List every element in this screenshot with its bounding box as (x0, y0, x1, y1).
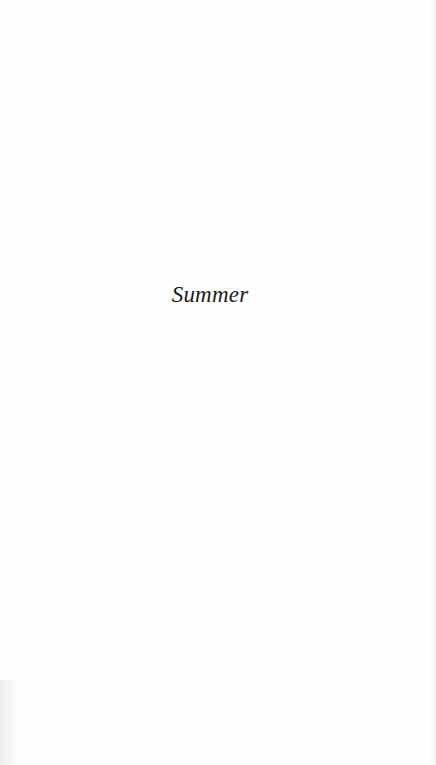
section-title: Summer (0, 281, 420, 309)
scan-edge-shadow-left (0, 680, 18, 765)
scan-edge-shadow-right (428, 0, 436, 765)
book-page: Summer (0, 0, 436, 765)
